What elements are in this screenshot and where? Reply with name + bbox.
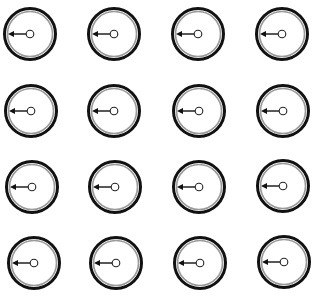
hub-circle (196, 259, 204, 267)
hub-circle (27, 107, 35, 115)
dial-grid (0, 0, 317, 296)
hub-circle (30, 259, 38, 267)
hub-circle (110, 30, 118, 38)
hub-circle (194, 30, 202, 38)
hub-circle (26, 30, 34, 38)
hub-circle (28, 183, 36, 191)
hub-circle (195, 183, 203, 191)
hub-circle (110, 107, 118, 115)
hub-circle (280, 258, 288, 266)
hub-circle (278, 30, 286, 38)
hub-circle (279, 182, 287, 190)
hub-circle (111, 183, 119, 191)
background (0, 0, 317, 296)
hub-circle (112, 259, 120, 267)
hub-circle (279, 107, 287, 115)
hub-circle (195, 107, 203, 115)
